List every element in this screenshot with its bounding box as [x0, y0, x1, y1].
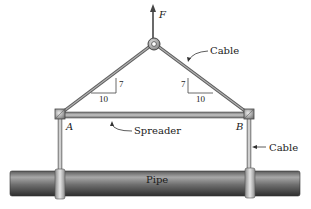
force-label: F	[158, 9, 167, 20]
vertical-cable-a	[58, 118, 62, 172]
force-arrow	[150, 4, 156, 38]
spreader-bar	[60, 112, 249, 118]
cable-top-leader	[189, 51, 208, 60]
spreader-label: Spreader	[134, 125, 181, 136]
pipe-clamp-b	[245, 168, 255, 198]
spreader-leader	[112, 124, 132, 131]
cable-top-label: Cable	[210, 45, 239, 56]
slope-left-run: 10	[99, 94, 109, 104]
lifting-ring	[148, 38, 160, 50]
node-b	[244, 109, 254, 119]
slope-right-rise: 7	[181, 79, 186, 89]
node-a	[55, 109, 65, 119]
pipe-lift-diagram: F Cable 7 10 7 10 Spreader A	[0, 0, 311, 209]
cable-side-label: Cable	[269, 142, 298, 153]
pipe-label: Pipe	[146, 174, 168, 185]
pipe-clamp-a	[55, 169, 65, 199]
slope-left-rise: 7	[119, 79, 124, 89]
node-b-label: B	[235, 121, 243, 132]
node-a-label: A	[65, 121, 73, 132]
slope-right-run: 10	[196, 94, 206, 104]
vertical-cable-b	[247, 118, 251, 172]
